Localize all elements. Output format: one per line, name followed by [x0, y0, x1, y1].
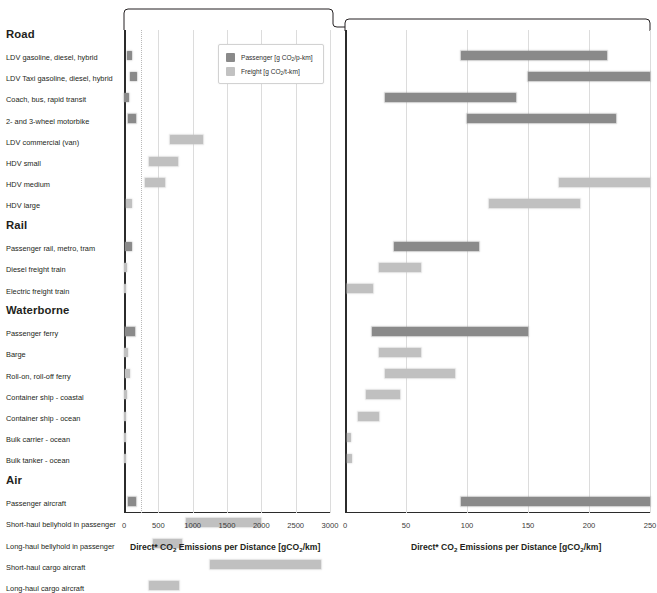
row-label: 2- and 3-wheel motorbike: [6, 117, 118, 126]
bar-freight: [489, 199, 581, 208]
left-panel: [124, 30, 330, 513]
row-label: LDV Taxi gasoline, diesel, hybrid: [6, 74, 118, 83]
legend: Passenger [g CO2/p-km] Freight [g CO2/t-…: [218, 44, 324, 84]
row-label: Roll-on, roll-off ferry: [6, 372, 118, 381]
legend-passenger-sub: 2: [292, 57, 295, 62]
bar-passenger: [461, 51, 607, 60]
bar-freight: [124, 454, 126, 463]
row-label: Long-haul bellyhold in passenger: [6, 542, 118, 551]
legend-label-passenger: Passenger [g CO2/p-km]: [241, 52, 313, 64]
legend-freight-tail: /t-km]: [283, 68, 299, 75]
row-label: Bulk carrier - ocean: [6, 435, 118, 444]
bar-passenger: [385, 93, 516, 102]
gridline: [467, 30, 468, 513]
bar-freight: [347, 454, 352, 463]
legend-passenger-tail: /p-km]: [294, 54, 312, 61]
row-label: HDV medium: [6, 180, 118, 189]
row-label: Container ship - ocean: [6, 414, 118, 423]
bar-freight: [149, 581, 179, 590]
bar-freight: [149, 157, 178, 166]
bar-freight: [126, 199, 132, 208]
row-label: LDV gasoline, diesel, hybrid: [6, 53, 118, 62]
bar-freight: [385, 369, 455, 378]
bar-freight: [366, 390, 400, 399]
axis-tick-label: 150: [508, 521, 548, 530]
right-panel-x-axis: [345, 512, 650, 513]
legend-freight-text: Freight [g CO: [241, 68, 281, 75]
row-label: Container ship - coastal: [6, 393, 118, 402]
group-label-road: Road: [6, 28, 35, 40]
bar-freight: [124, 433, 126, 442]
axis-title-part-a: Direct* CO: [411, 542, 454, 552]
legend-swatch-passenger-icon: [226, 53, 235, 62]
bar-freight: [379, 263, 420, 272]
legend-passenger-text: Passenger [g CO: [241, 54, 292, 61]
row-label: Passenger rail, metro, tram: [6, 244, 118, 253]
group-label-rail: Rail: [6, 219, 27, 231]
bar-passenger: [128, 497, 136, 506]
axis-title-part-b: Emissions per Distance [gCO: [457, 542, 580, 552]
bar-freight: [170, 135, 203, 144]
axis-title-sub-2: 2: [299, 546, 302, 553]
row-label: Barge: [6, 350, 118, 359]
bar-passenger: [125, 327, 135, 336]
axis-title-sub-1: 2: [173, 546, 176, 553]
row-label: Bulk tanker - ocean: [6, 456, 118, 465]
bar-freight: [145, 178, 166, 187]
row-label: Electric freight train: [6, 287, 118, 296]
axis-tick-label: 0: [325, 521, 365, 530]
bar-freight: [559, 178, 651, 187]
bar-freight: [210, 560, 321, 569]
axis-title-part-c: /km]: [303, 542, 321, 552]
axis-tick-label: 250: [630, 521, 657, 530]
bar-passenger: [127, 51, 132, 60]
bar-passenger: [372, 327, 528, 336]
row-label: Short-haul cargo aircraft: [6, 563, 118, 572]
row-label: HDV small: [6, 159, 118, 168]
gridline: [227, 30, 228, 513]
bar-freight: [125, 369, 130, 378]
gridline: [650, 30, 651, 513]
legend-freight-sub: 2: [281, 71, 284, 76]
bar-passenger: [461, 497, 650, 506]
bar-freight: [124, 390, 127, 399]
legend-label-freight: Freight [g CO2/t-km]: [241, 66, 300, 78]
axis-title-part-a: Direct* CO: [130, 542, 173, 552]
axis-title-sub-1: 2: [454, 546, 457, 553]
bar-freight: [124, 412, 126, 421]
right-panel: [345, 30, 650, 513]
axis-title-part-b: Emissions per Distance [gCO: [176, 542, 299, 552]
row-label: Long-haul cargo aircraft: [6, 584, 118, 593]
group-label-waterborne: Waterborne: [6, 304, 69, 316]
row-label: Passenger aircraft: [6, 499, 118, 508]
left-axis-title: Direct* CO2 Emissions per Distance [gCO2…: [130, 542, 320, 552]
gridline: [193, 30, 194, 513]
legend-swatch-freight-icon: [226, 67, 235, 76]
gridline-threshold: [141, 30, 142, 513]
gridline: [261, 30, 262, 513]
bar-freight: [124, 263, 127, 272]
bar-passenger: [467, 114, 616, 123]
bar-freight: [358, 412, 379, 421]
gridline: [158, 30, 159, 513]
row-label: Passenger ferry: [6, 329, 118, 338]
gridline: [296, 30, 297, 513]
row-label: Short-haul bellyhold in passenger: [6, 520, 118, 529]
bar-passenger: [125, 242, 131, 251]
bar-freight: [124, 284, 126, 293]
axis-tick-label: 200: [569, 521, 609, 530]
bar-freight: [347, 284, 373, 293]
row-label: HDV large: [6, 201, 118, 210]
gridline: [330, 30, 331, 513]
row-label: Diesel freight train: [6, 265, 118, 274]
gridline: [528, 30, 529, 513]
axis-title-part-c: /km]: [584, 542, 602, 552]
bar-freight: [379, 348, 420, 357]
bar-passenger: [528, 72, 650, 81]
row-label: Coach, bus, rapid transit: [6, 95, 118, 104]
right-panel-y-axis: [345, 30, 347, 513]
group-label-air: Air: [6, 474, 22, 486]
bar-passenger: [394, 242, 479, 251]
bar-passenger: [130, 72, 137, 81]
